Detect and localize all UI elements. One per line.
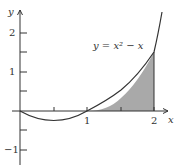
x-tick-label-2: 2 [151, 115, 157, 126]
shaded-area [87, 52, 154, 111]
equation-label: y = x² − x [92, 40, 144, 51]
x-tick-label-1: 1 [84, 115, 90, 126]
graph: y x 2 1 −1 1 2 y = x² − x [0, 0, 176, 167]
y-ticks [20, 33, 27, 150]
x-axis-label: x [168, 114, 174, 125]
y-tick-label-neg1: −1 [4, 144, 19, 155]
y-tick-label-2: 2 [9, 27, 15, 38]
y-axis-label: y [7, 6, 14, 17]
y-tick-label-1: 1 [9, 66, 15, 77]
